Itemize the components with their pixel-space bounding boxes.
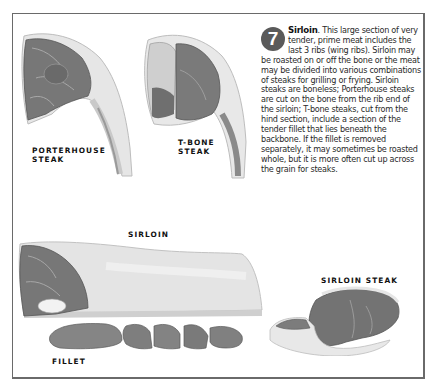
- section-description: 7Sirloin. This large section of very ten…: [261, 26, 423, 175]
- porterhouse-steak-label: PORTERHOUSE STEAK: [32, 146, 106, 164]
- sirloin-steak-label: SIRLOIN STEAK: [321, 276, 398, 285]
- t-bone-steak-image: [140, 30, 250, 180]
- fillet-image: [46, 318, 246, 352]
- section-number-badge: 7: [261, 27, 285, 51]
- fillet-label: FILLET: [52, 357, 86, 366]
- t-bone-steak-label: T-BONE STEAK: [178, 138, 215, 156]
- sirloin-joint-image: [16, 236, 266, 318]
- section-title: Sirloin: [288, 25, 318, 35]
- sirloin-steak-image: [266, 286, 416, 356]
- section-body: . This large section of very tender, pri…: [261, 25, 421, 174]
